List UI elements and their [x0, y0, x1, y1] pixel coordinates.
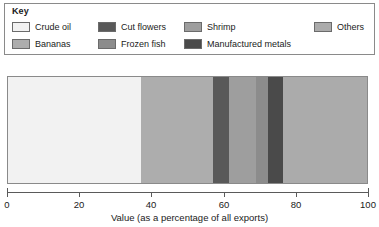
x-axis-tick-label: 80: [291, 199, 302, 210]
legend-swatch-cut-flowers: [98, 22, 116, 32]
bar-segment-bananas: [141, 77, 213, 183]
x-axis-tick-label: 20: [74, 199, 85, 210]
x-axis-tick-label: 40: [146, 199, 157, 210]
x-axis-tick: [79, 192, 80, 197]
bar-segment-cut-flowers: [213, 77, 229, 183]
legend-item-cut-flowers: Cut flowers: [98, 18, 184, 35]
legend-swatch-others: [314, 22, 332, 32]
legend-swatch-frozen-fish: [98, 39, 116, 49]
x-axis-tick: [224, 192, 225, 197]
bar-segment-shrimp: [229, 77, 256, 183]
chart-page: Key Crude oil Cut flowers Shrimp Others: [0, 0, 379, 227]
legend-label-shrimp: Shrimp: [207, 22, 236, 32]
x-axis-tick-label: 0: [4, 199, 9, 210]
legend-row: Bananas Frozen fish Manufactured metals: [12, 35, 372, 52]
legend-item-frozen-fish: Frozen fish: [98, 35, 184, 52]
x-axis-title: Value (as a percentage of all exports): [0, 212, 379, 223]
legend-item-bananas: Bananas: [12, 35, 98, 52]
bar-segment-crude-oil: [8, 77, 141, 183]
legend-box: Key Crude oil Cut flowers Shrimp Others: [4, 3, 375, 55]
stacked-bar: [8, 77, 367, 183]
x-axis-tick-label: 60: [219, 199, 230, 210]
legend-row: Crude oil Cut flowers Shrimp Others: [12, 18, 372, 35]
x-axis-tick: [151, 192, 152, 197]
legend-label-cut-flowers: Cut flowers: [121, 22, 166, 32]
legend-swatch-manufactured-metals: [184, 39, 202, 49]
x-axis-tick: [296, 192, 297, 197]
legend-label-manufactured-metals: Manufactured metals: [207, 39, 291, 49]
legend-item-crude-oil: Crude oil: [12, 18, 98, 35]
legend-swatch-shrimp: [184, 22, 202, 32]
x-axis-tick-label: 100: [360, 199, 376, 210]
bar-segment-others: [283, 77, 367, 183]
legend-grid: Crude oil Cut flowers Shrimp Others: [12, 18, 372, 52]
plot-area: [7, 76, 368, 184]
x-axis-tick: [368, 192, 369, 197]
legend-item-manufactured-metals: Manufactured metals: [184, 35, 314, 52]
x-axis-line: [7, 192, 368, 193]
legend-label-others: Others: [337, 22, 364, 32]
legend-label-frozen-fish: Frozen fish: [121, 39, 166, 49]
x-axis-tick: [7, 192, 8, 197]
legend-item-others: Others: [314, 18, 364, 35]
legend-swatch-bananas: [12, 39, 30, 49]
legend-swatch-crude-oil: [12, 22, 30, 32]
legend-label-bananas: Bananas: [35, 39, 71, 49]
bar-segment-frozen-fish: [256, 77, 269, 183]
bar-segment-manufactured-metals: [268, 77, 282, 183]
legend-title: Key: [12, 6, 29, 17]
legend-item-shrimp: Shrimp: [184, 18, 314, 35]
legend-label-crude-oil: Crude oil: [35, 22, 71, 32]
